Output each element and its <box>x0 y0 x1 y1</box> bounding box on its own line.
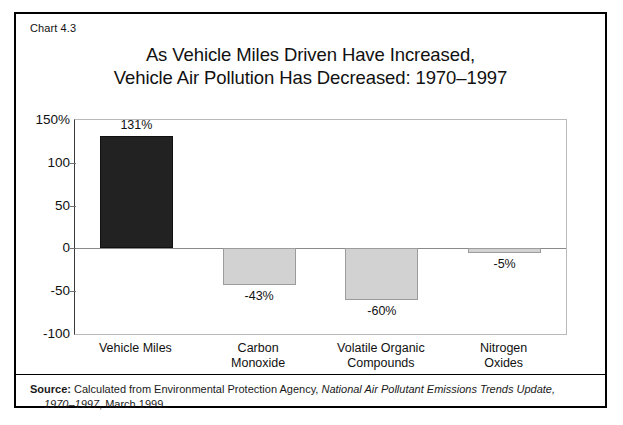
x-axis-category-carbon-monoxide: CarbonMonoxide <box>231 341 285 371</box>
source-second-line: 1970–1997, March 1999. <box>30 397 591 412</box>
bar-volatile-organic-compounds <box>345 248 418 299</box>
bar-value-label: -5% <box>494 257 516 271</box>
category-label-line: Carbon <box>231 341 285 356</box>
x-axis-category-volatile-organic-compounds: Volatile OrganicCompounds <box>337 341 425 371</box>
source-note: Source: Calculated from Environmental Pr… <box>30 382 591 411</box>
plot-wrapper: 150%100500-50-100 131%-43%-60%-5% Vehicl… <box>16 14 609 410</box>
bar-value-label: -60% <box>367 304 396 318</box>
chart-figure: Chart 4.3 As Vehicle Miles Driven Have I… <box>14 12 607 408</box>
y-axis-tick <box>70 248 76 249</box>
source-text-after: , March 1999. <box>99 398 166 410</box>
plot-area: 131%-43%-60%-5% <box>74 119 567 335</box>
y-axis-tick-labels: 150%100500-50-100 <box>16 119 70 335</box>
y-axis-tick-label: 100 <box>22 154 70 169</box>
source-divider <box>16 374 605 375</box>
y-axis-tick <box>70 291 76 292</box>
x-axis-category-nitrogen-oxides: NitrogenOxides <box>480 341 527 371</box>
y-axis-tick-label: 50 <box>22 197 70 212</box>
y-axis-tick-label: -100 <box>22 326 70 341</box>
y-axis-tick <box>70 206 76 207</box>
source-publication-title: National Air Pollutant Emissions Trends … <box>321 383 555 395</box>
bar-value-label: -43% <box>245 289 274 303</box>
source-years: 1970–1997 <box>44 398 99 410</box>
y-axis-tick <box>70 163 76 164</box>
category-label-line: Nitrogen <box>480 341 527 356</box>
y-axis-tick-label: -50 <box>22 283 70 298</box>
category-label-line: Volatile Organic <box>337 341 425 356</box>
bar-vehicle-miles <box>100 136 173 248</box>
source-text-before: Calculated from Environmental Protection… <box>71 383 321 395</box>
bar-nitrogen-oxides <box>468 248 541 252</box>
x-axis-category-vehicle-miles: Vehicle Miles <box>99 341 172 356</box>
category-label-line: Monoxide <box>231 356 285 371</box>
category-label-line: Oxides <box>480 356 527 371</box>
y-axis-tick-label: 150% <box>22 112 70 127</box>
source-label: Source: <box>30 383 71 395</box>
bar-carbon-monoxide <box>223 248 296 285</box>
category-label-line: Vehicle Miles <box>99 341 172 356</box>
bar-value-label: 131% <box>120 118 152 132</box>
y-axis-tick-label: 0 <box>22 240 70 255</box>
category-label-line: Compounds <box>337 356 425 371</box>
